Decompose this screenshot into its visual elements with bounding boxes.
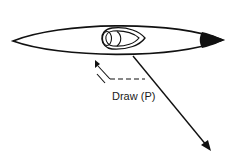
diagram-canvas (0, 0, 233, 161)
draw-arrow (95, 60, 145, 83)
kayak-draw-diagram: Draw (P) (0, 0, 233, 161)
stern-tip (200, 32, 224, 48)
force-arrow (133, 56, 211, 151)
draw-stroke-label: Draw (P) (112, 91, 155, 102)
